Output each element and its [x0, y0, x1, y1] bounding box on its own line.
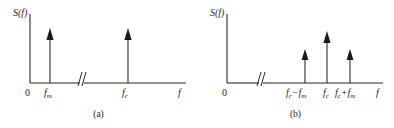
axis-break-icon-b	[255, 72, 267, 86]
impulse-arrow-fc	[124, 28, 131, 83]
tick-label-fc-a-sub: c	[125, 92, 128, 100]
tick-label-fc-a: fc	[122, 88, 128, 100]
x-axis-label-a: f	[178, 88, 181, 98]
caption-b: (b)	[197, 110, 394, 120]
figure-container: S(f) 0 fm fc f (a)	[0, 0, 394, 128]
origin-label-b: 0	[222, 88, 227, 98]
y-axis-label-a: S(f)	[13, 8, 27, 18]
tick-label-fc-b: fc	[323, 88, 329, 100]
tick-label-fm: fm	[44, 88, 52, 100]
axis-break-icon-a	[76, 72, 88, 86]
tick-label-fm-sub: m	[47, 92, 52, 100]
tick-label-fc-minus-fm: fc−fm	[286, 88, 306, 100]
impulse-arrow-fm	[46, 28, 53, 83]
y-axis-label-b: S(f)	[210, 8, 224, 18]
impulse-arrow-lower-sideband	[302, 49, 309, 83]
impulse-arrow-upper-sideband	[347, 49, 354, 83]
impulse-arrow-carrier	[323, 31, 330, 83]
origin-label-a: 0	[25, 88, 30, 98]
panel-b: S(f) 0 fc−fm fc fc+fm f (b)	[197, 0, 394, 128]
panel-a: S(f) 0 fm fc f (a)	[0, 0, 197, 128]
caption-a: (a)	[0, 110, 197, 120]
tick-label-fc-plus-fm: fc+fm	[335, 88, 355, 100]
x-axis-label-b: f	[376, 88, 379, 98]
